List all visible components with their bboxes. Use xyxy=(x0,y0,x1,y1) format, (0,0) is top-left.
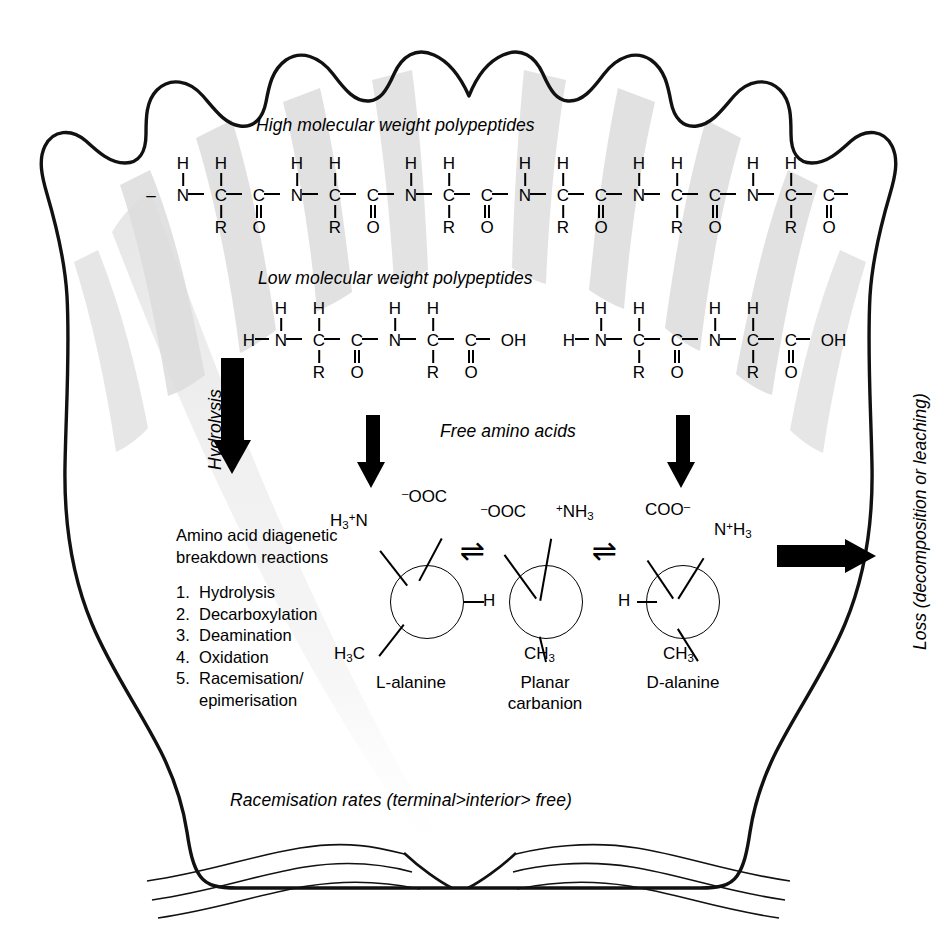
atom-H: H xyxy=(519,155,531,172)
atom-H: H xyxy=(215,155,227,172)
bond-vertical xyxy=(448,205,450,218)
item-number: 3. xyxy=(176,625,193,647)
atom-H: H xyxy=(405,155,417,172)
atom-C: C xyxy=(709,187,721,204)
bond-double xyxy=(826,205,832,218)
atom-H: H xyxy=(747,300,759,317)
bond-double xyxy=(468,350,474,363)
list-item: 2. Decarboxylation xyxy=(176,604,351,626)
group-amino-l: H3+N xyxy=(330,512,368,532)
atom-R: R xyxy=(443,219,455,236)
residue-N: H N xyxy=(696,300,734,386)
scallop-shell-illustration xyxy=(0,0,937,928)
atom-R: R xyxy=(313,364,325,381)
residue-C-alpha: H C R xyxy=(414,300,452,386)
bond-vertical xyxy=(334,173,336,186)
bond-vertical xyxy=(296,173,298,186)
atom-H: H xyxy=(747,155,759,172)
shell-growth-lines xyxy=(147,845,790,918)
bond-double xyxy=(674,350,680,363)
bond-vertical xyxy=(562,205,564,218)
atom-R: R xyxy=(557,219,569,236)
bond-vertical xyxy=(334,205,336,218)
group-ammonium-planar: +NH3 xyxy=(556,503,594,523)
residue-C-carbonyl: C O xyxy=(696,155,734,241)
residue-C-alpha: H C R xyxy=(772,155,810,241)
residue-C-carbonyl: C O xyxy=(338,300,376,386)
atom-C: C xyxy=(329,187,341,204)
residue-C-alpha: H C R xyxy=(300,300,338,386)
residue-C-carbonyl: C O xyxy=(240,155,278,241)
bond-vertical xyxy=(182,173,184,186)
atom-H: H xyxy=(275,300,287,317)
item-label: Deamination xyxy=(199,625,292,647)
item-label: Racemisation/ epimerisation xyxy=(199,668,304,711)
item-label: Decarboxylation xyxy=(199,604,317,626)
bond-vertical xyxy=(676,173,678,186)
group-OH: OH xyxy=(821,332,847,349)
group-carboxylate-planar: –OOC xyxy=(481,503,526,520)
residue-C-carbonyl: C O xyxy=(468,155,506,241)
terminal-H: H xyxy=(556,300,582,386)
bond-vertical xyxy=(524,173,526,186)
label-loss: Loss (decomposition or leaching) xyxy=(910,393,931,650)
bond-to-hydrogen xyxy=(464,601,484,603)
atom-C: C xyxy=(785,332,797,349)
caption-high-mw-polypeptides: High molecular weight polypeptides xyxy=(256,115,535,136)
residue-N: H N xyxy=(506,155,544,241)
atom-N: N xyxy=(177,187,189,204)
caption-free-amino-acids: Free amino acids xyxy=(440,421,576,442)
atom-C: C xyxy=(481,187,493,204)
bond-double xyxy=(712,205,718,218)
residue-C-alpha: H C R xyxy=(430,155,468,241)
atom-H: H xyxy=(177,155,189,172)
atom-R: R xyxy=(785,219,797,236)
equilibrium-arrows-icon: ⇌ xyxy=(460,536,485,566)
bond-double xyxy=(788,350,794,363)
atom-N: N xyxy=(747,187,759,204)
atom-C: C xyxy=(465,332,477,349)
bond-vertical xyxy=(600,318,602,331)
atom-C: C xyxy=(427,332,439,349)
list-item: 3. Deamination xyxy=(176,625,351,647)
atom-H: H xyxy=(427,300,439,317)
label-l-alanine: L-alanine xyxy=(356,672,466,693)
bond-vertical xyxy=(318,350,320,363)
reaction-list-heading-line1: Amino acid diagenetic xyxy=(176,525,351,547)
arrow-shaft xyxy=(366,415,380,469)
atom-R: R xyxy=(671,219,683,236)
residue-N: H N xyxy=(620,155,658,241)
atom-O: O xyxy=(670,364,683,381)
bond-double xyxy=(484,205,490,218)
atom-H: H xyxy=(633,155,645,172)
atom-C: C xyxy=(351,332,363,349)
atom-C: C xyxy=(747,332,759,349)
group-methyl-planar: CH3 xyxy=(524,645,555,665)
item-label: Hydrolysis xyxy=(199,582,275,604)
arrow-shaft xyxy=(221,358,244,442)
residue-C-carboxyl: C O xyxy=(772,300,810,386)
bond-vertical xyxy=(432,318,434,331)
atom-C: C xyxy=(823,187,835,204)
atom-C: C xyxy=(671,187,683,204)
terminal-OH: OH xyxy=(810,300,848,386)
atom-C: C xyxy=(633,332,645,349)
atom-H: H xyxy=(785,155,797,172)
atom-R: R xyxy=(427,364,439,381)
bond-horizontal xyxy=(476,338,490,340)
atom-N: N xyxy=(595,332,607,349)
bond-vertical xyxy=(752,318,754,331)
bond-vertical xyxy=(676,205,678,218)
bond-vertical xyxy=(280,318,282,331)
bond-vertical xyxy=(220,173,222,186)
atom-H: H xyxy=(633,300,645,317)
reaction-items: 1. Hydrolysis 2. Decarboxylation 3. Deam… xyxy=(176,582,351,711)
residue-C-alpha: H C R xyxy=(658,155,696,241)
list-item: 4. Oxidation xyxy=(176,647,351,669)
shell-hinge-notch-right xyxy=(468,853,516,888)
bond-vertical xyxy=(394,318,396,331)
residue-N: H N xyxy=(582,300,620,386)
label-d-alanine: D-alanine xyxy=(628,672,738,693)
label-line1: Planar xyxy=(490,672,600,693)
atom-N: N xyxy=(633,187,645,204)
